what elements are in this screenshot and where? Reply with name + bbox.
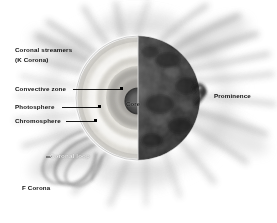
endpoint-convective-zone — [120, 87, 123, 90]
endpoint-photosphere — [98, 105, 101, 108]
label-prominence: Prominence — [214, 92, 251, 100]
label-coronal-streamers: Coronal streamers — [15, 46, 72, 54]
label-convective-zone: Convective zone — [15, 85, 66, 93]
label-coronal-loop: Coronal loop — [50, 152, 90, 160]
label-f-corona: F Corona — [22, 184, 50, 192]
label-photosphere: Photosphere — [15, 103, 54, 111]
sun-structure-diagram: Coronal streamers (K Corona) Convective … — [0, 0, 277, 223]
label-core: Core — [126, 100, 140, 108]
label-chromosphere: Chromosphere — [15, 117, 61, 125]
endpoint-chromosphere — [94, 119, 97, 122]
label-k-corona: (K Corona) — [15, 56, 48, 64]
